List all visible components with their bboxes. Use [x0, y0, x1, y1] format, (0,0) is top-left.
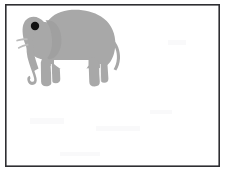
elephant-figure-svg [0, 0, 226, 174]
front-leg-near [41, 57, 52, 86]
eye-icon [31, 22, 39, 30]
figure-canvas: Elephant silhouette line drawing [0, 0, 226, 174]
hind-leg-near [89, 57, 100, 86]
